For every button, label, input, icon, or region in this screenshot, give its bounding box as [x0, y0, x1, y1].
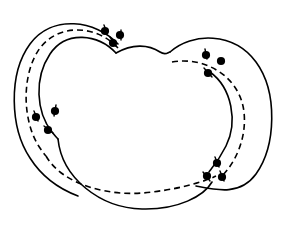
- vertex-dot-p8: [217, 57, 225, 65]
- vertex-dot-p11: [203, 172, 211, 180]
- vertex-dot-p3: [109, 39, 117, 47]
- diagram-canvas: Two overlapping crescent bands with dash…: [0, 0, 288, 228]
- vertex-dot-p4: [32, 113, 40, 121]
- vertex-dot-p5: [51, 107, 59, 115]
- vertex-dot-p6: [44, 126, 52, 134]
- vertex-dot-p12: [218, 173, 226, 181]
- vertex-dot-p9: [204, 69, 212, 77]
- vertex-dot-p2: [116, 31, 124, 39]
- vertex-dot-p7: [202, 51, 210, 59]
- diagram-container: Two overlapping crescent bands with dash…: [0, 0, 288, 228]
- vertex-dot-p10: [213, 159, 221, 167]
- vertex-dot-p1: [101, 27, 109, 35]
